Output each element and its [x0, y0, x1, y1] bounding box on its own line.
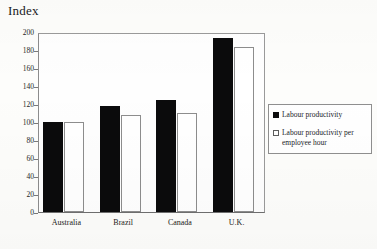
- y-axis-tick-label: 60: [4, 155, 34, 163]
- y-axis-tick-mark: [34, 213, 38, 214]
- open-square-icon: [273, 130, 279, 136]
- x-axis-category-label: Australia: [38, 219, 95, 227]
- legend-item-labour-productivity-per-employee-hour: Labour productivity per employee hour: [273, 128, 371, 147]
- x-axis-category-label: Brazil: [95, 219, 152, 227]
- y-axis-tick-label: 80: [4, 137, 34, 145]
- bar: [43, 122, 63, 212]
- y-axis-tick-label: 120: [4, 101, 34, 109]
- y-axis-tick-label: 100: [4, 119, 34, 127]
- legend-item-labour-productivity: Labour productivity: [273, 110, 371, 120]
- bar: [64, 122, 84, 212]
- legend-item-label: Labour productivity: [282, 110, 342, 120]
- bar: [121, 115, 141, 212]
- bar-group: [153, 34, 210, 212]
- bar: [213, 38, 233, 212]
- x-axis-category-label: U.K.: [208, 219, 265, 227]
- bar: [100, 106, 120, 212]
- y-axis-tick-labels: 020406080100120140160180200: [0, 0, 36, 249]
- y-axis-tick-label: 40: [4, 173, 34, 181]
- bar-group: [96, 34, 153, 212]
- filled-square-icon: [273, 112, 279, 118]
- bar: [156, 100, 176, 213]
- bar: [234, 47, 254, 212]
- y-axis-tick-label: 180: [4, 47, 34, 55]
- bar-chart-figure: Index 020406080100120140160180200 Austra…: [0, 0, 377, 249]
- y-axis-tick-label: 200: [4, 29, 34, 37]
- y-axis-tick-label: 140: [4, 83, 34, 91]
- x-axis-category-label: Canada: [152, 219, 209, 227]
- plot-area: [38, 33, 265, 213]
- y-axis-tick-label: 20: [4, 191, 34, 199]
- bar: [177, 113, 197, 212]
- chart-legend: Labour productivity Labour productivity …: [268, 104, 372, 154]
- y-axis-tick-label: 160: [4, 65, 34, 73]
- y-axis-tick-label: 0: [4, 209, 34, 217]
- legend-item-label: Labour productivity per employee hour: [282, 128, 371, 147]
- bar-group: [39, 34, 96, 212]
- bar-group: [209, 34, 266, 212]
